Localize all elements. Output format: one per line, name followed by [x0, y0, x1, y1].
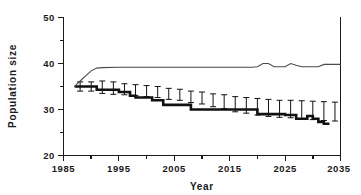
chart-figure: 20 30 40 50 1985 1995 2005 2015 2025 203…	[0, 0, 361, 195]
y-axis-title: Population size	[7, 44, 18, 128]
error-bars-group	[77, 81, 338, 121]
x-tick-label-1985: 1985	[52, 163, 76, 174]
population-size-line-chart: 20 30 40 50 1985 1995 2005 2015 2025 203…	[0, 0, 361, 195]
y-tick-labels: 20 30 40 50	[43, 12, 55, 161]
x-tick-label-2005: 2005	[162, 163, 186, 174]
x-tick-label-2025: 2025	[273, 163, 297, 174]
x-axis-ticks	[64, 156, 341, 162]
y-axis-ticks	[58, 18, 64, 156]
x-axis-title: Year	[190, 181, 214, 192]
y-tick-label-50: 50	[43, 12, 55, 23]
x-tick-label-2035: 2035	[327, 163, 351, 174]
axis-frame	[64, 17, 342, 156]
upper-series-line	[75, 64, 341, 87]
x-tick-label-2015: 2015	[218, 163, 242, 174]
y-tick-label-20: 20	[43, 150, 55, 161]
y-tick-label-30: 30	[43, 104, 55, 115]
x-tick-label-1995: 1995	[107, 163, 131, 174]
x-tick-labels: 1985 1995 2005 2015 2025 2035	[52, 163, 351, 174]
y-tick-label-40: 40	[43, 58, 55, 69]
